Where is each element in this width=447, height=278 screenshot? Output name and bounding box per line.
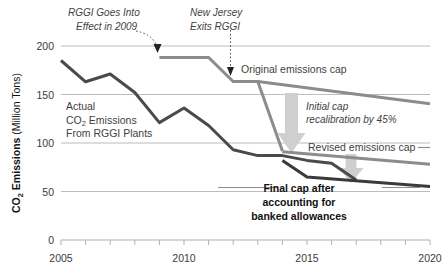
x-tick-marks	[61, 240, 430, 245]
xtick-label-2015: 2015	[295, 252, 319, 264]
ytick-label-150: 150	[36, 89, 54, 101]
annotation-final-line1: Final cap after	[263, 182, 334, 194]
chart-container: 200 150 100 50 0 2005 2010 2015 2020 CO2…	[0, 0, 447, 278]
annotation-final-cap: Final cap after accounting for banked al…	[251, 182, 347, 222]
annotation-nj-exits-line1: New Jersey	[190, 7, 243, 18]
annotation-rggi-effect-line1: RGGI Goes Into	[68, 7, 140, 18]
ytick-label-0: 0	[48, 234, 54, 246]
annotation-actual-line3: From RGGI Plants	[66, 127, 152, 139]
annotation-actual-co: CO	[66, 114, 82, 126]
svg-text:CO2 Emissions (Million Tons): CO2 Emissions (Million Tons)	[10, 73, 25, 213]
annotation-actual-emissions-word: Emissions	[86, 114, 137, 126]
xtick-label-2005: 2005	[49, 252, 73, 264]
annotation-revised-cap: Revised emissions cap	[308, 141, 416, 153]
y-axis-title: CO2 Emissions (Million Tons)	[10, 73, 25, 213]
ytick-label-100: 100	[36, 137, 54, 149]
y-axis-title-emissions: Emissions	[10, 135, 22, 193]
annotation-nj-exits-line2: Exits RGGI	[190, 21, 240, 32]
ytick-label-200: 200	[36, 40, 54, 52]
y-axis-title-co: CO	[10, 197, 22, 213]
annotation-recal-line2: recalibration by 45%	[306, 114, 397, 125]
annotation-actual-line2: CO2 Emissions	[66, 114, 137, 129]
annotation-initial-recalibration: Initial cap recalibration by 45%	[306, 101, 397, 125]
chart-svg: 200 150 100 50 0 2005 2010 2015 2020 CO2…	[0, 0, 447, 278]
annotation-nj-exits: New Jersey Exits RGGI	[190, 7, 243, 32]
annotation-final-line2: accounting for	[263, 196, 336, 208]
annotation-actual-emissions: Actual CO2 Emissions From RGGI Plants	[66, 100, 152, 139]
xtick-label-2020: 2020	[418, 252, 442, 264]
ytick-label-50: 50	[42, 186, 54, 198]
annotation-actual-line1: Actual	[66, 100, 95, 112]
xtick-label-2010: 2010	[172, 252, 196, 264]
nj-exits-leader	[227, 30, 234, 76]
annotation-rggi-effect: RGGI Goes Into Effect in 2009	[68, 7, 140, 32]
annotation-recal-line1: Initial cap	[306, 101, 349, 112]
annotation-final-line3: banked allowances	[251, 210, 347, 222]
recalibration-arrow	[278, 93, 306, 153]
annotation-rggi-effect-line2: Effect in 2009	[76, 21, 138, 32]
annotation-original-cap: Original emissions cap	[241, 63, 347, 75]
y-axis-title-units: (Million Tons)	[10, 73, 22, 135]
rggi-effect-leader	[136, 31, 162, 53]
